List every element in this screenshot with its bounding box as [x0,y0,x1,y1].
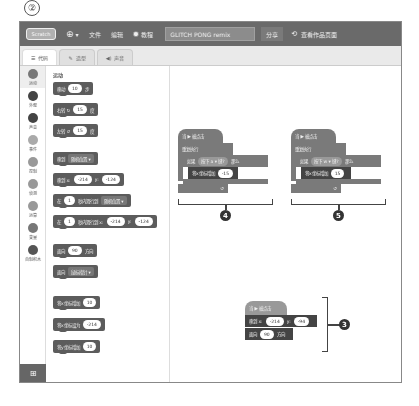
block-label: 在 [57,198,61,204]
forever-block[interactable]: 重复执行 [178,143,233,155]
block-input[interactable]: 1 [64,196,75,205]
block-input[interactable]: -94 [294,317,309,326]
block-input[interactable]: 10 [83,342,97,351]
tutorial-label: 教程 [141,30,153,39]
category-sound[interactable]: 声音 [20,110,45,132]
see-project-page-button[interactable]: ⟲ 查看作品页面 [291,30,337,39]
block-input[interactable]: 15 [73,105,87,114]
category-label: 声音 [29,124,37,130]
block-label: 将x坐标增加 [192,170,215,176]
tab-sounds-label: 声音 [114,54,124,61]
block-point-direction[interactable]: 面向90方向 [53,244,97,257]
block-input[interactable]: 90 [68,246,82,255]
block-turn-right[interactable]: 右转 ↻15度 [53,103,98,116]
language-menu[interactable]: ⊕▾ [66,29,79,39]
chevron-down-icon: ▾ [76,31,79,38]
block-glide-xy[interactable]: 在1秒内滑行到 x:-214y:-124 [53,215,157,228]
block-dropdown[interactable]: 随机位置 ▾ [101,196,127,205]
tutorial-menu[interactable]: ✹ 教程 [133,30,154,39]
block-dropdown[interactable]: 鼠标指针 ▾ [68,267,94,276]
block-change-y[interactable]: 将y坐标增加10 [53,340,100,353]
block-goto-target[interactable]: 移到随机位置 ▾ [53,152,98,165]
category-variables[interactable]: 变量 [20,220,45,242]
category-label: 运动 [29,80,37,86]
script-right[interactable]: 当 ▶ 被点击 重复执行 如果 按下 w ▾ 键? 那么 将x坐标增加15 ↺ [291,129,381,187]
block-change-x[interactable]: 将x坐标增加10 [53,296,100,309]
block-label: 将x坐标设为 [57,322,80,328]
add-extension-button[interactable]: ⊞ [20,364,46,382]
block-input[interactable]: 10 [68,84,82,93]
block-set-x[interactable]: 将x坐标设为-214 [53,318,105,331]
block-move-steps[interactable]: 移动10步 [53,82,93,95]
category-label: 运算 [29,212,37,218]
block-input[interactable]: 15 [73,126,87,135]
project-title-input[interactable]: GLITCH PONG remix [165,27,255,41]
block-label: 移动 [57,86,65,92]
category-my-blocks[interactable]: 自制积木 [20,242,45,264]
change-x-block[interactable]: 将x坐标增加-15 [188,167,238,179]
when-flag-clicked-hat[interactable]: 当 ▶ 被点击 [291,129,336,143]
tab-sounds[interactable]: ◀) 声音 [97,49,134,65]
block-input[interactable]: 1 [64,217,75,226]
block-label: y: [287,319,291,324]
block-dropdown[interactable]: 随机位置 ▾ [68,154,94,163]
edit-menu[interactable]: 编辑 [111,30,123,39]
block-input[interactable]: -124 [102,175,120,184]
editor-tabs: ☰ 代码 ✎ 造型 ◀) 声音 [20,46,401,66]
when-flag-clicked-hat[interactable]: 当 ▶ 被点击 [245,301,287,315]
script-left[interactable]: 当 ▶ 被点击 重复执行 如果 按下 a ▾ 键? 那么 将x坐标增加-15 ↺ [178,129,268,187]
key-pressed-reporter[interactable]: 按下 w ▾ 键? [311,157,342,166]
block-input[interactable]: -214 [266,317,284,326]
block-input[interactable]: -214 [74,175,92,184]
loop-arrow-icon: ↺ [333,186,337,191]
file-menu[interactable]: 文件 [89,30,101,39]
block-goto-xy[interactable]: 移到 x:-214y:-124 [53,173,124,186]
category-label: 事件 [29,146,37,152]
block-label: 右转 ↻ [57,107,70,113]
category-label: 控制 [29,168,37,174]
block-label: w ▾ [323,159,330,164]
share-button[interactable]: 分享 [261,27,283,41]
category-dot-icon [28,113,38,123]
block-label: 方向 [85,248,93,254]
category-events[interactable]: 事件 [20,132,45,154]
category-dot-icon [28,223,38,233]
category-sensing[interactable]: 侦测 [20,176,45,198]
block-input[interactable]: -214 [83,320,101,329]
block-label: 那么 [345,158,353,164]
when-flag-clicked-hat[interactable]: 当 ▶ 被点击 [178,129,223,143]
category-looks[interactable]: 外观 [20,88,45,110]
block-label: 移到 x: [57,177,71,183]
scratch-logo[interactable]: Scratch [26,28,56,40]
category-operators[interactable]: 运算 [20,198,45,220]
category-dot-icon [28,135,38,145]
block-input[interactable]: 10 [83,298,97,307]
tab-code[interactable]: ☰ 代码 [22,49,57,65]
if-block[interactable]: 如果 按下 a ▾ 键? 那么 [183,155,268,167]
callout-3: 3 [339,319,350,330]
key-pressed-reporter[interactable]: 按下 a ▾ 键? [198,157,228,166]
goto-xy-block[interactable]: 移到 x:-214y:-94 [245,315,317,327]
block-input[interactable]: 90 [260,330,274,339]
category-dot-icon [28,201,38,211]
code-icon: ☰ [31,55,35,61]
tab-costumes[interactable]: ✎ 造型 [59,49,94,65]
if-block[interactable]: 如果 按下 w ▾ 键? 那么 [296,155,381,167]
change-x-block[interactable]: 将x坐标增加15 [301,167,351,179]
point-direction-block[interactable]: 面向90方向 [245,328,293,340]
script-bottom[interactable]: 当 ▶ 被点击 移到 x:-214y:-94 面向90方向 [243,301,323,346]
block-input[interactable]: -124 [135,217,153,226]
block-label: 键? [218,158,224,164]
block-input[interactable]: 15 [331,169,345,178]
scratch-editor-window: Scratch ⊕▾ 文件 编辑 ✹ 教程 GLITCH PONG remix … [19,21,402,383]
code-workspace[interactable]: 当 ▶ 被点击 重复执行 如果 按下 a ▾ 键? 那么 将x坐标增加-15 ↺… [171,66,401,382]
category-motion[interactable]: 运动 [20,66,45,88]
forever-block[interactable]: 重复执行 [291,143,346,155]
block-point-towards[interactable]: 面向鼠标指针 ▾ [53,265,98,278]
category-control[interactable]: 控制 [20,154,45,176]
block-label: 方向 [277,331,285,337]
block-glide-target[interactable]: 在1秒内滑行到随机位置 ▾ [53,194,131,207]
block-input[interactable]: -214 [107,217,125,226]
block-input[interactable]: -15 [218,169,233,178]
block-turn-left[interactable]: 左转 ↺15度 [53,124,98,137]
